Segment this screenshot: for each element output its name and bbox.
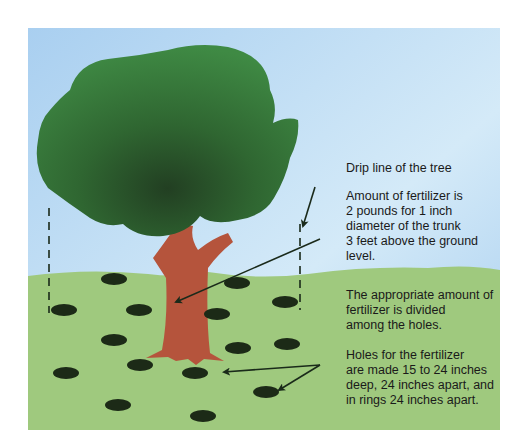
hole <box>182 367 208 379</box>
label-fertilizer-holes: Holes for the fertilizer are made 15 to … <box>346 348 500 408</box>
hole <box>51 304 77 316</box>
hole <box>274 338 300 350</box>
hole <box>53 367 79 379</box>
hole <box>101 334 127 346</box>
hole <box>225 342 251 354</box>
label-drip-line: Drip line of the tree <box>346 161 452 176</box>
hole <box>272 296 298 308</box>
hole <box>105 399 131 411</box>
hole <box>190 410 216 422</box>
diagram-frame: Drip line of the tree Amount of fertiliz… <box>28 28 500 430</box>
hole <box>126 304 152 316</box>
hole <box>127 359 153 371</box>
hole <box>253 386 279 398</box>
label-fertilizer-amount: Amount of fertilizer is 2 pounds for 1 i… <box>346 189 500 264</box>
hole <box>101 273 127 285</box>
hole <box>204 308 230 320</box>
label-fertilizer-divided: The appropriate amount of fertilizer is … <box>346 288 500 333</box>
